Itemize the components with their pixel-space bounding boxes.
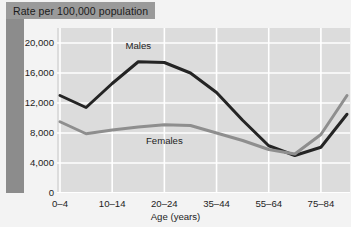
y-axis-tick-label: 20,000 xyxy=(6,37,54,48)
grid-lines xyxy=(57,28,350,193)
x-axis-tick-label: 55–64 xyxy=(255,198,282,209)
y-axis-tick-label: 0 xyxy=(6,187,54,198)
y-axis-tick-label: 4,000 xyxy=(6,157,54,168)
x-axis-labels: 0–410–1420–2435–4455–6475–84 xyxy=(0,198,351,212)
chart-figure: Rate per 100,000 population 04,0008,0001… xyxy=(0,0,351,227)
series-line-males xyxy=(60,62,347,156)
y-axis-tick-label: 16,000 xyxy=(6,67,54,78)
series-line-females xyxy=(60,96,347,155)
y-axis-tick-label: 8,000 xyxy=(6,127,54,138)
chart-canvas xyxy=(57,28,350,193)
x-axis-tick-label: 20–24 xyxy=(151,198,178,209)
x-axis-tick-label: 0–4 xyxy=(52,198,68,209)
x-axis-tick-label: 10–14 xyxy=(99,198,126,209)
plot-area xyxy=(57,28,350,193)
y-axis-tick-label: 12,000 xyxy=(6,97,54,108)
series-label-males: Males xyxy=(125,40,151,51)
y-axis-labels: 04,0008,00012,00016,00020,000 xyxy=(0,0,54,227)
x-axis-title: Age (years) xyxy=(0,211,351,222)
x-axis-tick-label: 75–84 xyxy=(308,198,335,209)
series-label-females: Females xyxy=(146,135,183,146)
x-axis-tick-label: 35–44 xyxy=(203,198,230,209)
series-lines xyxy=(60,62,347,156)
